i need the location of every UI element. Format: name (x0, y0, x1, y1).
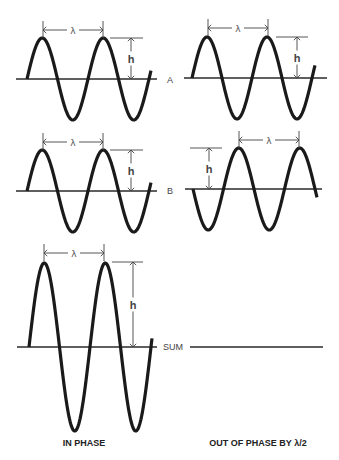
panel-right-B: λh (185, 131, 322, 230)
h-symbol: h (206, 163, 213, 175)
panel-right-A: λh (184, 19, 327, 119)
wavelength-marker: λ (239, 131, 299, 148)
h-symbol: h (128, 165, 135, 177)
row-label-a: A (167, 75, 173, 85)
lambda-symbol: λ (235, 24, 241, 34)
wave-superposition-diagram: λhλhλhλhλh A B SUM IN PHASE OUT OF PHASE… (0, 0, 339, 460)
caption-out-of-phase: OUT OF PHASE BY λ/2 (209, 438, 306, 448)
wavelength-marker: λ (44, 244, 104, 261)
wavelength-marker: λ (43, 21, 103, 38)
h-symbol: h (130, 299, 137, 311)
panel-left-SUM: λh (17, 244, 157, 431)
wavelength-marker: λ (208, 19, 268, 36)
row-label-b: B (167, 186, 173, 196)
lambda-symbol: λ (70, 26, 76, 36)
h-symbol: h (128, 53, 135, 65)
h-symbol: h (294, 52, 301, 64)
caption-in-phase: IN PHASE (63, 438, 106, 448)
lambda-symbol: λ (266, 136, 272, 146)
lambda-symbol: λ (70, 138, 76, 148)
height-marker: h (190, 148, 222, 189)
panel-left-B: λh (16, 133, 157, 232)
lambda-symbol: λ (71, 249, 77, 259)
row-label-sum: SUM (163, 342, 183, 352)
panel-left-A: λh (16, 21, 157, 120)
wavelength-marker: λ (43, 133, 103, 150)
